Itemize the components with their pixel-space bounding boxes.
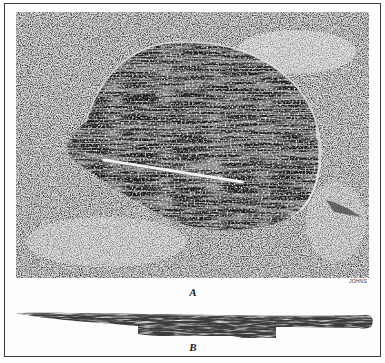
panel-b-label: B [183, 341, 203, 353]
engraver-signature: JOHNS [349, 278, 367, 284]
panel-a-label: A [183, 286, 203, 298]
panel-b-illustration [14, 310, 374, 340]
panel-a-illustration [16, 12, 369, 278]
